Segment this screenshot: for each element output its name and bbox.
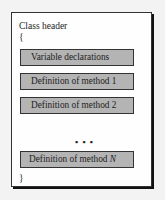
ellipsis: • • • [75, 137, 94, 147]
class-structure-container: Class header { Variable declarations Def… [11, 12, 152, 187]
close-brace: } [19, 173, 24, 184]
class-header-label: Class header [19, 21, 67, 32]
method-2-box: Definition of method 2 [20, 97, 134, 114]
method-1-box: Definition of method 1 [20, 73, 134, 90]
method-n-prefix: Definition of method [29, 154, 110, 164]
method-n-box: Definition of method N [20, 151, 134, 168]
method-n-variable: N [110, 154, 116, 164]
open-brace: { [19, 32, 24, 43]
variable-declarations-box: Variable declarations [20, 49, 134, 66]
